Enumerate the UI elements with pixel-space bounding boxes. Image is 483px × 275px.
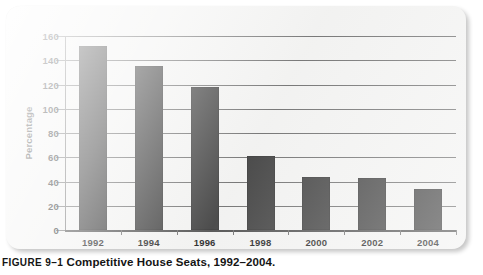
bar-1992 bbox=[79, 46, 107, 230]
gridline-120 bbox=[65, 85, 456, 86]
x-tick-mark-1992 bbox=[121, 230, 122, 235]
gridline-140 bbox=[65, 60, 456, 61]
bar-1998 bbox=[247, 156, 275, 230]
figure-caption-text: Competitive House Seats, 1992–2004. bbox=[67, 256, 276, 268]
x-tick-label-1994: 1994 bbox=[138, 237, 160, 248]
y-tick-label-80: 80 bbox=[48, 128, 59, 139]
x-tick-label-1998: 1998 bbox=[250, 237, 272, 248]
x-tick-label-1992: 1992 bbox=[82, 237, 104, 248]
x-tick-mark-1996 bbox=[233, 230, 234, 235]
y-tick-label-160: 160 bbox=[43, 31, 59, 42]
chart-panel: 160140120100806040200 199219941996199820… bbox=[6, 6, 466, 249]
bar-2002 bbox=[358, 178, 386, 230]
figure-root: 160140120100806040200 199219941996199820… bbox=[0, 0, 483, 275]
y-tick-label-120: 120 bbox=[43, 79, 59, 90]
x-tick-label-2000: 2000 bbox=[305, 237, 327, 248]
x-tick-label-2002: 2002 bbox=[361, 237, 383, 248]
figure-caption: FIGURE 9–1 Competitive House Seats, 1992… bbox=[2, 256, 275, 268]
plot-area: 160140120100806040200 bbox=[65, 36, 456, 230]
y-tick-label-40: 40 bbox=[48, 176, 59, 187]
gridline-100 bbox=[65, 109, 456, 110]
bar-1996 bbox=[191, 87, 219, 230]
x-tick-label-2004: 2004 bbox=[417, 237, 439, 248]
y-tick-label-60: 60 bbox=[48, 152, 59, 163]
y-axis-title: Percentage bbox=[23, 106, 34, 159]
gridline-80 bbox=[65, 133, 456, 134]
y-tick-label-140: 140 bbox=[43, 55, 59, 66]
x-axis-line bbox=[65, 230, 457, 232]
y-tick-label-20: 20 bbox=[48, 200, 59, 211]
x-tick-mark-1998 bbox=[288, 230, 289, 235]
y-axis-line bbox=[65, 36, 66, 231]
x-tick-mark-1994 bbox=[177, 230, 178, 235]
bar-2000 bbox=[302, 177, 330, 230]
bar-2004 bbox=[414, 189, 442, 230]
x-tick-label-1996: 1996 bbox=[194, 237, 216, 248]
y-tick-label-0: 0 bbox=[54, 225, 59, 236]
x-tick-mark-2002 bbox=[400, 230, 401, 235]
y-tick-label-100: 100 bbox=[43, 103, 59, 114]
figure-number: FIGURE 9–1 bbox=[2, 257, 63, 268]
x-tick-mark-2000 bbox=[344, 230, 345, 235]
bar-1994 bbox=[135, 66, 163, 230]
gridline-160 bbox=[65, 36, 456, 37]
x-tick-mark-2004 bbox=[456, 230, 457, 235]
